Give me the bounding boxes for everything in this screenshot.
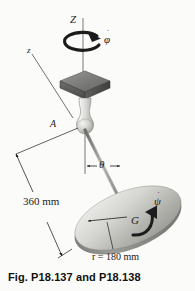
support-plate — [60, 71, 110, 99]
axis-z-body-label: z — [27, 46, 31, 55]
spin-rate-label: ˙ ψ — [154, 196, 161, 207]
point-G-label: G — [131, 215, 139, 226]
axis-Z-label: Z — [70, 14, 76, 25]
theta-angle-label: θ — [99, 159, 104, 170]
mechanics-figure-illustration — [0, 0, 195, 291]
dimension-360mm-label: 360 mm — [23, 196, 59, 207]
dimension-radius-label: r = 180 mm — [92, 252, 139, 262]
figure-container: Z z ˙ φ A θ 360 mm G ˙ ψ r = 180 mm Fig.… — [0, 0, 195, 291]
figure-caption: Fig. P18.137 and P18.138 — [8, 271, 141, 283]
point-A-label: A — [50, 119, 56, 129]
dimension-360mm-lines — [16, 128, 78, 258]
precession-dot-accent: ˙ — [107, 29, 110, 38]
spin-dot-accent: ˙ — [157, 191, 160, 200]
precession-rate-label: ˙ φ — [104, 34, 110, 45]
